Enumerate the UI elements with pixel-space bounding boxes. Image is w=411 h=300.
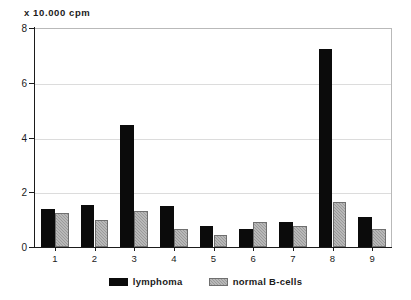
x-tick-label-5: 5 [204,253,224,264]
bar-lymphoma-1 [41,209,55,247]
bar-lymphoma-3 [120,125,134,247]
x-tick-4 [174,247,175,251]
bar-normal-b-cells-3 [134,211,148,247]
bar-group-4 [154,29,194,247]
bar-group-8 [313,29,353,247]
y-tick-label-8: 8 [3,23,27,34]
bar-normal-b-cells-2 [95,220,109,247]
y-axis-caption: x 10.000 cpm [24,7,90,18]
bar-chart-figure: x 10.000 cpm 02468 123456789 lymphoma no… [0,0,411,300]
chart-legend: lymphoma normal B-cells [0,276,411,287]
bar-group-2 [75,29,115,247]
x-tick-label-3: 3 [124,253,144,264]
y-axis-tick-labels: 02468 [0,0,27,300]
y-tick-0 [29,247,34,248]
y-tick-label-6: 6 [3,77,27,88]
x-tick-label-1: 1 [45,253,65,264]
x-tick-6 [253,247,254,251]
y-tick-6 [29,83,34,84]
bar-group-1 [35,29,75,247]
bar-group-5 [194,29,234,247]
bar-lymphoma-5 [200,226,214,247]
x-tick-9 [372,247,373,251]
bar-group-3 [114,29,154,247]
bar-lymphoma-2 [81,205,95,247]
x-tick-1 [55,247,56,251]
bar-lymphoma-4 [160,206,174,247]
y-tick-label-2: 2 [3,187,27,198]
x-tick-label-6: 6 [243,253,263,264]
bar-normal-b-cells-6 [253,222,267,247]
x-tick-label-7: 7 [283,253,303,264]
y-tick-4 [29,138,34,139]
bar-lymphoma-8 [319,49,333,247]
bar-normal-b-cells-9 [372,229,386,247]
bar-lymphoma-9 [358,217,372,247]
bar-normal-b-cells-4 [174,229,188,247]
bar-normal-b-cells-8 [333,202,347,247]
x-tick-label-9: 9 [362,253,382,264]
x-tick-7 [293,247,294,251]
bar-normal-b-cells-7 [293,226,307,247]
y-tick-8 [29,28,34,29]
bar-group-6 [233,29,273,247]
legend-label-lymphoma: lymphoma [133,276,183,287]
bar-lymphoma-6 [239,229,253,247]
bar-lymphoma-7 [279,222,293,247]
y-tick-2 [29,192,34,193]
legend-label-normal-b-cells: normal B-cells [233,276,303,287]
x-tick-label-2: 2 [85,253,105,264]
legend-entry-normal-b-cells: normal B-cells [209,276,303,287]
x-tick-3 [134,247,135,251]
y-tick-label-4: 4 [3,132,27,143]
x-tick-5 [214,247,215,251]
plot-area [35,28,392,247]
y-tick-label-0: 0 [3,242,27,253]
x-tick-8 [333,247,334,251]
y-axis-line [34,27,35,248]
legend-swatch-normal-b-cells-icon [209,278,228,286]
x-tick-label-8: 8 [323,253,343,264]
legend-entry-lymphoma: lymphoma [109,276,183,287]
x-tick-label-4: 4 [164,253,184,264]
legend-swatch-lymphoma-icon [109,278,128,286]
bar-group-7 [273,29,313,247]
bar-normal-b-cells-5 [214,235,228,247]
bar-group-9 [352,29,392,247]
x-tick-2 [95,247,96,251]
bar-normal-b-cells-1 [55,213,69,247]
